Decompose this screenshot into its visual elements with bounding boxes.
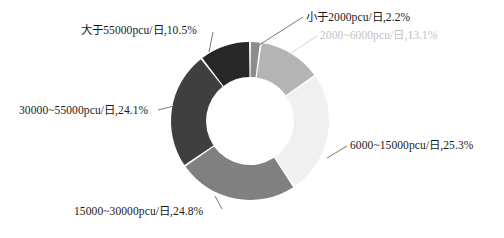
- leader-line-5: [209, 32, 213, 52]
- leader-line-2: [327, 146, 347, 158]
- slice-label-gt55000: 大于55000pcu/日,10.5%: [81, 24, 197, 37]
- donut-slice-3[interactable]: [185, 146, 293, 200]
- chart-page: 小于2000pcu/日,2.2% 2000~6000pcu/日,13.1% 60…: [0, 0, 504, 238]
- donut-slice-2[interactable]: [275, 77, 329, 187]
- slice-label-6000-15000: 6000~15000pcu/日,25.3%: [350, 139, 473, 152]
- slice-label-15000-30000: 15000~30000pcu/日,24.8%: [74, 205, 203, 218]
- slice-label-30000-55000: 30000~55000pcu/日,24.1%: [19, 104, 148, 117]
- donut-slices: [171, 42, 329, 200]
- leader-line-4: [158, 106, 174, 110]
- slice-label-2000-6000: 2000~6000pcu/日,13.1%: [320, 29, 438, 42]
- leader-line-3: [215, 196, 222, 209]
- leader-line-1: [288, 36, 317, 55]
- leader-line-0: [259, 17, 303, 45]
- slice-label-lt2000: 小于2000pcu/日,2.2%: [306, 11, 410, 24]
